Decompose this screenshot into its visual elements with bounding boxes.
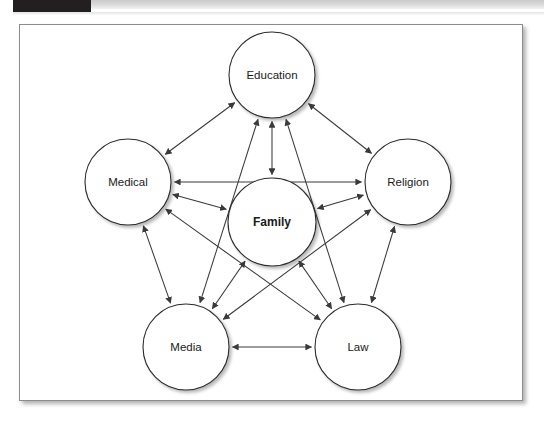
node-label-law: Law	[347, 341, 369, 353]
edge-medical-media	[143, 226, 170, 303]
node-label-media: Media	[170, 341, 202, 353]
edge-medical-family	[173, 194, 226, 209]
figure-page: EducationMedicalReligionFamilyMediaLaw	[0, 0, 544, 423]
institution-network-diagram: EducationMedicalReligionFamilyMediaLaw	[0, 0, 544, 423]
edge-education-medical	[165, 103, 234, 155]
node-education[interactable]: Education	[229, 32, 315, 118]
node-label-medical: Medical	[108, 176, 148, 188]
edge-religion-family	[318, 195, 364, 208]
edge-family-law	[299, 261, 332, 309]
node-law[interactable]: Law	[315, 304, 401, 390]
node-family[interactable]: Family	[228, 178, 316, 266]
edge-family-media	[212, 261, 245, 309]
nodes-layer: EducationMedicalReligionFamilyMediaLaw	[85, 32, 451, 390]
node-media[interactable]: Media	[143, 304, 229, 390]
node-medical[interactable]: Medical	[85, 139, 171, 225]
edge-religion-law	[371, 227, 394, 303]
node-label-family: Family	[253, 215, 291, 229]
node-label-education: Education	[246, 69, 297, 81]
node-label-religion: Religion	[387, 176, 429, 188]
node-religion[interactable]: Religion	[365, 139, 451, 225]
edge-education-religion	[309, 104, 372, 153]
